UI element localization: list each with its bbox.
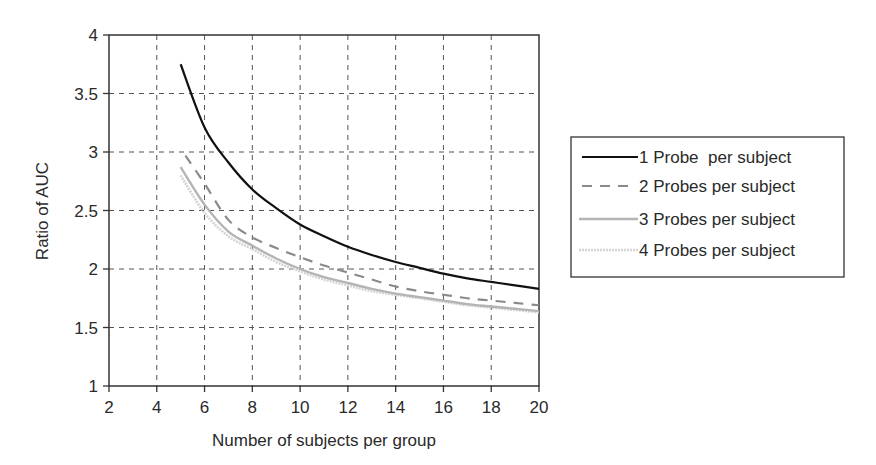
legend-label-1-probe: 1 Probe per subject — [639, 148, 791, 167]
series-line-1-probes — [181, 64, 539, 289]
y-tick-label: 1.5 — [74, 319, 98, 338]
y-tick-label: 4 — [89, 26, 98, 45]
series-line-4-probes — [181, 175, 539, 312]
x-tick-label: 16 — [434, 398, 453, 417]
legend: 1 Probe per subject 2 Probes per subject… — [571, 137, 844, 277]
x-tick-label: 12 — [338, 398, 357, 417]
x-axis-title: Number of subjects per group — [212, 431, 436, 450]
x-axis: 2468101214161820 — [104, 386, 548, 417]
x-tick-label: 6 — [200, 398, 209, 417]
grid-lines — [109, 35, 539, 386]
y-tick-label: 2 — [89, 260, 98, 279]
y-tick-label: 1 — [89, 377, 98, 396]
line-chart: 11.522.533.54 2468101214161820 Number of… — [0, 0, 876, 465]
x-tick-label: 20 — [530, 398, 549, 417]
y-tick-label: 3.5 — [74, 85, 98, 104]
series-lines — [181, 64, 539, 312]
y-tick-label: 2.5 — [74, 202, 98, 221]
legend-label-4-probes: 4 Probes per subject — [639, 241, 795, 260]
y-tick-label: 3 — [89, 143, 98, 162]
x-tick-label: 10 — [291, 398, 310, 417]
y-axis: 11.522.533.54 — [74, 26, 109, 396]
legend-label-3-probes: 3 Probes per subject — [639, 210, 795, 229]
x-tick-label: 18 — [482, 398, 501, 417]
series-line-2-probes — [185, 156, 539, 306]
x-tick-label: 8 — [248, 398, 257, 417]
legend-label-2-probes: 2 Probes per subject — [639, 177, 795, 196]
x-tick-label: 14 — [386, 398, 405, 417]
x-tick-label: 4 — [152, 398, 161, 417]
y-axis-title: Ratio of AUC — [33, 162, 52, 260]
x-tick-label: 2 — [104, 398, 113, 417]
